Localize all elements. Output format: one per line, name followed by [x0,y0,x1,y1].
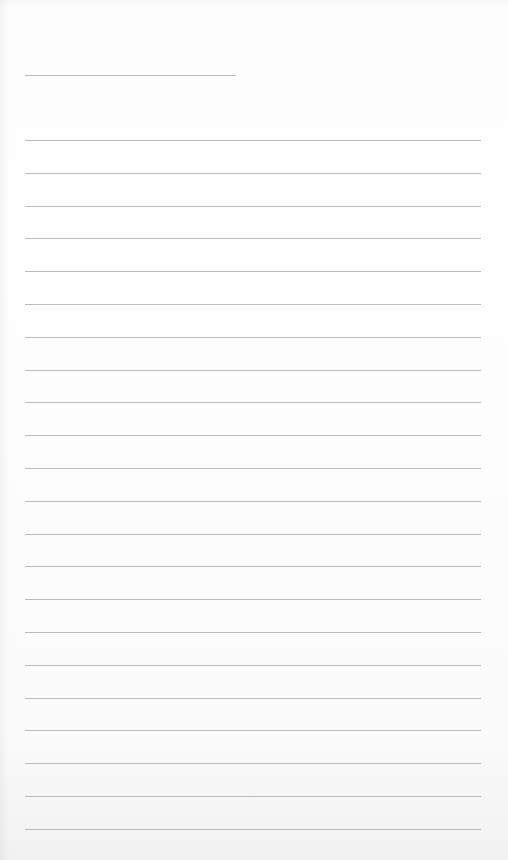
ruled-line [25,370,481,371]
ruled-line [25,829,481,830]
ruled-line [25,435,481,436]
ruled-line [25,271,481,272]
ruled-line [25,238,481,239]
ruled-line [25,140,481,141]
ruled-line [25,730,481,731]
ruled-line [25,566,481,567]
ruled-line [25,337,481,338]
ruled-line [25,665,481,666]
ruled-line [25,304,481,305]
ruled-line [25,632,481,633]
ruled-line [25,599,481,600]
ruled-line [25,763,481,764]
ruled-line [25,698,481,699]
lined-paper-sheet [0,0,508,860]
header-short-line [25,75,236,76]
ruled-line [25,173,481,174]
ruled-line [25,534,481,535]
ruled-line [25,796,481,797]
ruled-line [25,468,481,469]
ruled-line [25,402,481,403]
ruled-line [25,206,481,207]
ruled-line [25,501,481,502]
